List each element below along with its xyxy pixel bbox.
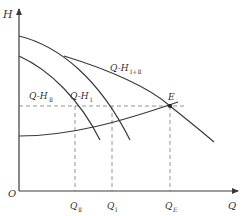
x-axis-label: Q [228, 200, 236, 211]
x-mark-q2-sub: Ⅱ [78, 206, 82, 213]
label-q-h-1plus2: Q-H Ⅰ+Ⅱ [110, 63, 141, 75]
label-q-h-1plus2-main: Q-H [110, 63, 129, 73]
label-q-h-1-sub: Ⅰ [90, 96, 93, 103]
label-q-h-1: Q-H Ⅰ [70, 91, 93, 103]
x-mark-q2-main: Q [70, 201, 78, 211]
curve-system [19, 102, 178, 136]
origin-label: O [8, 188, 16, 199]
label-q-h-2-sub: Ⅱ [49, 96, 53, 103]
y-axis-label: H [2, 8, 13, 21]
x-mark-q1-sub: Ⅰ [115, 206, 118, 213]
label-q-h-2: Q-H Ⅱ [29, 91, 53, 103]
label-q-h-1-main: Q-H [70, 91, 89, 101]
pump-parallel-diagram: H O Q Q-H Ⅱ Q-H Ⅰ Q-H Ⅰ+Ⅱ E Q Ⅱ Q Ⅰ Q E [0, 0, 247, 216]
x-mark-qe: Q E [165, 201, 178, 213]
label-q-h-1plus2-sub: Ⅰ+Ⅱ [130, 68, 141, 75]
x-mark-qe-sub: E [172, 206, 178, 213]
x-mark-qe-main: Q [165, 201, 173, 211]
x-mark-q1-main: Q [107, 201, 115, 211]
x-mark-q2: Q Ⅱ [70, 201, 82, 213]
operating-point-marker [168, 104, 172, 108]
curve-q-h-1 [19, 36, 130, 140]
label-q-h-2-main: Q-H [29, 91, 48, 101]
operating-point-label: E [167, 92, 175, 102]
x-mark-q1: Q Ⅰ [107, 201, 118, 213]
